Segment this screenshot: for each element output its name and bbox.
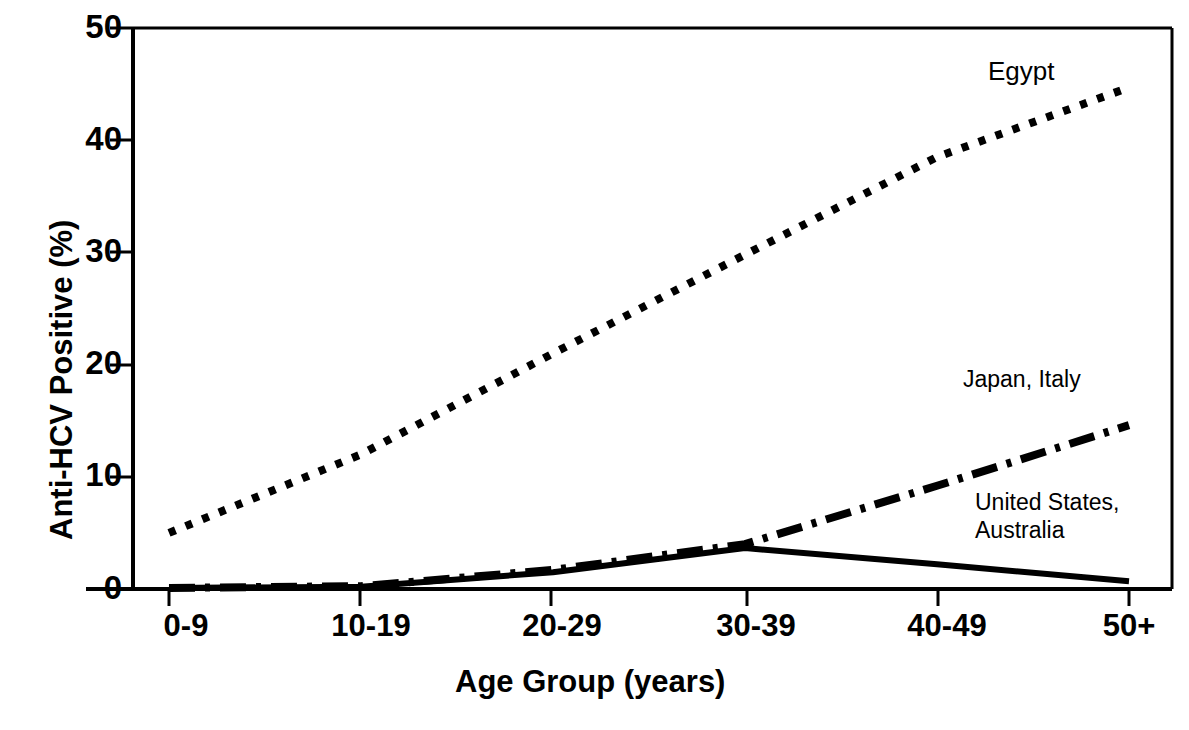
- y-axis-ticks: [110, 28, 133, 589]
- series-layer: [169, 87, 1129, 587]
- axis-frame: [86, 28, 1172, 589]
- series-line-egypt: [169, 87, 1129, 532]
- series-line-japan-italy: [169, 425, 1129, 588]
- chart-figure: 50 40 30 20 10 0 0-9 10-19 20-29 30-39 4…: [0, 0, 1189, 730]
- chart-plot-area: [0, 0, 1189, 730]
- x-axis-ticks: [169, 589, 1129, 606]
